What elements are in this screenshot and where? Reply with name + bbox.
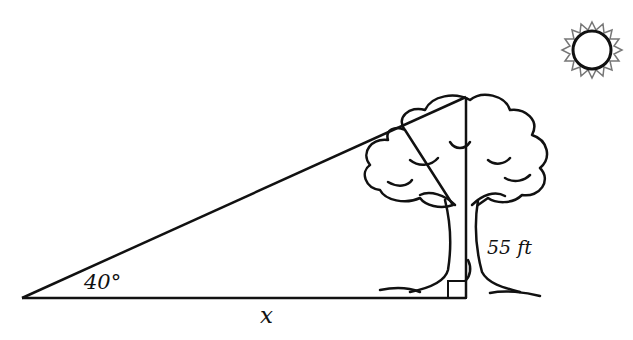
hypotenuse	[22, 97, 466, 298]
tree-illustration	[365, 95, 547, 296]
base-label: x	[260, 302, 273, 328]
right-angle-marker	[448, 281, 466, 298]
sun-icon	[562, 22, 622, 78]
height-label: 55 ft	[487, 236, 532, 258]
right-triangle	[22, 97, 466, 298]
angle-label: 40°	[84, 270, 121, 294]
